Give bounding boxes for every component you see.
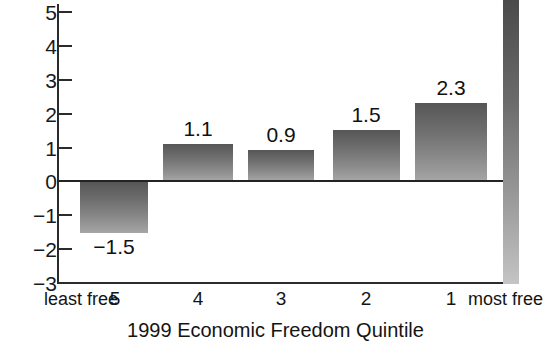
y-tick-mark-minus2 (59, 248, 72, 250)
y-tick-label-minus1: −1 (13, 205, 57, 226)
category-tick-2: 2 (356, 288, 376, 310)
bar-label-quintile-1: 2.3 (411, 77, 491, 98)
y-tick-mark-4 (59, 45, 72, 47)
bar-quintile-1[interactable] (415, 103, 487, 181)
bar-label-quintile-4: 1.1 (158, 118, 238, 139)
y-tick-label-3: 3 (13, 70, 57, 91)
y-tick-mark-3 (59, 79, 72, 81)
category-tick-4: 4 (188, 288, 208, 310)
y-tick-mark-2 (59, 113, 72, 115)
category-tick-1: 1 (441, 288, 461, 310)
right-gradient-strip (503, 0, 519, 284)
y-tick-mark-5 (59, 11, 72, 13)
bar-chart: 5 4 3 2 1 0 −1 −2 −3 −1.5 1.1 0.9 1.5 2. (0, 0, 551, 352)
bar-quintile-2[interactable] (333, 130, 400, 181)
bar-label-quintile-5: −1.5 (74, 236, 154, 257)
y-tick-mark-minus1 (59, 214, 72, 216)
most-free-label: most free (468, 288, 543, 310)
y-tick-label-minus2: −2 (13, 239, 57, 260)
bar-quintile-3[interactable] (248, 150, 314, 181)
category-tick-3: 3 (271, 288, 291, 310)
bar-label-quintile-2: 1.5 (326, 104, 406, 125)
x-axis-title: 1999 Economic Freedom Quintile (0, 318, 551, 342)
y-tick-label-5: 5 (13, 2, 57, 23)
zero-baseline (57, 180, 517, 182)
x-axis-line (57, 282, 517, 284)
bar-label-quintile-3: 0.9 (241, 124, 321, 145)
category-axis: least free 5 4 3 2 1 most free (0, 288, 551, 314)
bar-quintile-5[interactable] (80, 182, 148, 233)
y-tick-label-2: 2 (13, 104, 57, 125)
y-tick-label-0: 0 (13, 171, 57, 192)
y-tick-label-1: 1 (13, 138, 57, 159)
y-tick-mark-1 (59, 147, 72, 149)
bar-quintile-4[interactable] (163, 144, 233, 181)
category-tick-5: 5 (105, 288, 125, 310)
y-tick-label-4: 4 (13, 36, 57, 57)
